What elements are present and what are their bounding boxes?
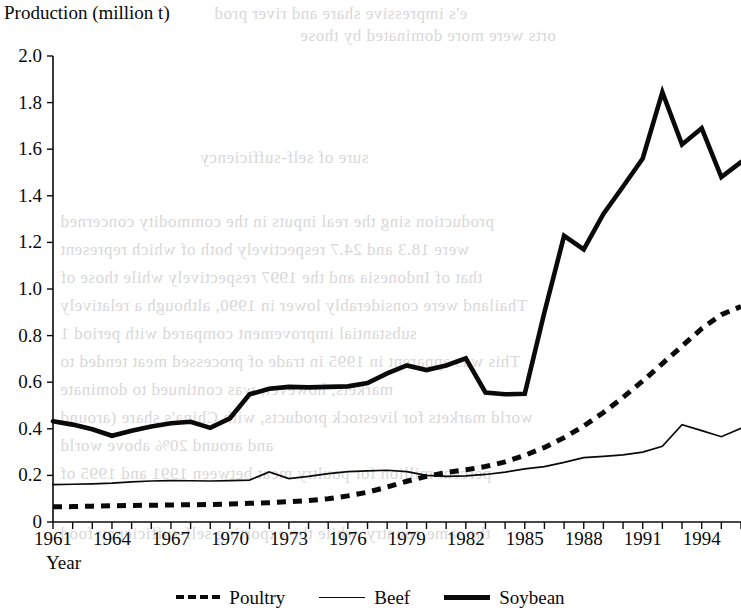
series-line-poultry xyxy=(53,306,741,506)
legend-label: Poultry xyxy=(229,588,285,607)
production-line-chart: Production (million t) Year 2.01.81.61.4… xyxy=(0,0,741,612)
legend-item-soybean: Soybean xyxy=(444,588,564,607)
chart-legend: PoultryBeefSoybean xyxy=(0,583,741,611)
legend-item-poultry: Poultry xyxy=(176,588,285,607)
legend-swatch-poultry xyxy=(176,595,220,599)
legend-item-beef: Beef xyxy=(319,588,410,607)
plot-area xyxy=(0,0,741,612)
legend-swatch-beef xyxy=(319,597,365,598)
legend-label: Beef xyxy=(374,588,410,607)
legend-label: Soybean xyxy=(499,588,564,607)
series-line-beef xyxy=(53,425,741,485)
legend-swatch-soybean xyxy=(444,595,490,600)
